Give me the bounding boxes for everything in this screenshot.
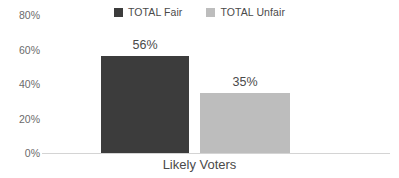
- bar-total-fair: [101, 56, 189, 153]
- y-tick-80: 80%: [0, 10, 40, 21]
- x-axis-line: [42, 153, 390, 154]
- bar-chart: TOTAL Fair TOTAL Unfair 80% 60% 40% 20% …: [0, 0, 399, 178]
- y-tick-40: 40%: [0, 79, 40, 90]
- data-label-total-unfair: 35%: [232, 76, 257, 89]
- y-tick-60: 60%: [0, 44, 40, 55]
- bar-total-unfair: [200, 93, 290, 153]
- y-tick-20: 20%: [0, 113, 40, 124]
- category-label-likely-voters: Likely Voters: [0, 158, 399, 171]
- plot-area: 80% 60% 40% 20% 0% 56% 35% Likely Voters: [0, 0, 399, 178]
- data-label-total-fair: 56%: [132, 39, 157, 52]
- y-tick-0: 0%: [0, 148, 40, 159]
